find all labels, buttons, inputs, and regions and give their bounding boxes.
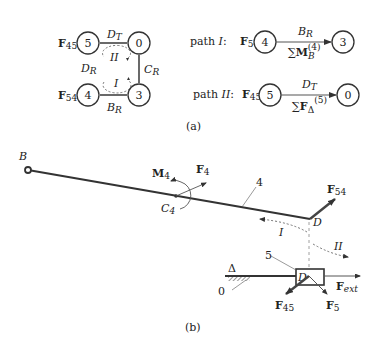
node-0-label: 0 [136, 37, 143, 50]
loop-II-label: II [109, 51, 119, 64]
ground-0-label: 0 [218, 285, 225, 298]
path-I-node-4-label: 4 [262, 36, 269, 49]
path-II-name: path II: [193, 88, 234, 101]
path-I-node-3-label: 3 [340, 36, 347, 49]
path-I-label: I [278, 226, 284, 239]
link-4-label: 4 [256, 176, 263, 189]
force-F54-label: F54 [58, 89, 78, 103]
force-F5-label: F5 [326, 299, 340, 313]
path-II-edge-label: DT [301, 78, 318, 92]
ground-hatch [228, 277, 250, 281]
node-4-label: 4 [85, 89, 92, 102]
kinematic-diagram: 5 0 4 3 F45 F54 DT CR BR DR II I path I:… [0, 0, 389, 339]
force-F45-label: F45 [58, 37, 78, 51]
graph-a: 5 0 4 3 F45 F54 DT CR BR DR II I [58, 28, 159, 115]
path-I-edge-label: BR [297, 25, 313, 39]
side-label-DR: DR [80, 62, 97, 76]
node-3-label: 3 [136, 89, 143, 102]
point-C4-label: C4 [161, 202, 175, 216]
path-II: path II: F45 5 0 DT ∑FΔ(5) [193, 78, 359, 115]
mechanism-b: B C4 M4 F4 4 F54 D I II Δ 0 D [18, 150, 360, 313]
edge-label-CR: CR [144, 63, 159, 77]
path-II-node-0-label: 0 [345, 89, 352, 102]
caption-a: (a) [186, 120, 201, 133]
edge-label-BR: BR [106, 101, 122, 115]
node-5-label: 5 [85, 37, 92, 50]
path-II-label: II [333, 240, 343, 253]
path-I-equation: ∑MB(4) [288, 42, 320, 61]
caption-b: (b) [185, 321, 201, 334]
path-II-equation: ∑FΔ(5) [292, 95, 327, 115]
point-B-label: B [18, 150, 27, 163]
path-I-arrow [260, 219, 307, 232]
axis-delta-label: Δ [228, 262, 236, 275]
link-5-label: 5 [265, 249, 272, 262]
force-Fext-label: Fext [336, 280, 358, 294]
path-II-node-5-label: 5 [267, 89, 274, 102]
path-I-name: path I: [190, 35, 227, 48]
loop-I-label: I [113, 77, 119, 90]
point-D-label: D [312, 216, 322, 229]
force-F45-label: F45 [275, 299, 295, 313]
force-F54-label: F54 [327, 183, 347, 197]
path-II-arrow [313, 244, 348, 257]
force-F4-label: F4 [196, 163, 210, 177]
edge-label-DT: DT [106, 28, 123, 42]
moment-M4-label: M4 [152, 167, 170, 181]
pin-B [25, 167, 31, 173]
path-I: path I: F54 4 3 BR ∑MB(4) [190, 25, 354, 61]
